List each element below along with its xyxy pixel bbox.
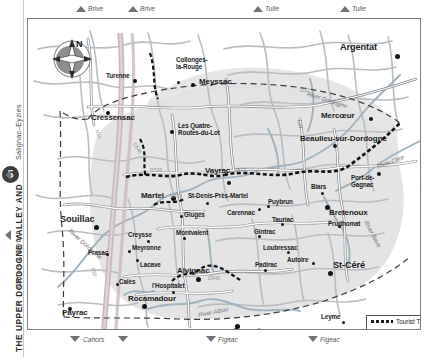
- town-dot[interactable]: [94, 225, 99, 230]
- town-label[interactable]: Prudhomat: [328, 221, 360, 228]
- town-dot[interactable]: [328, 271, 333, 276]
- road-ref: D12: [300, 87, 309, 93]
- town-dot[interactable]: [206, 202, 209, 205]
- town-dot[interactable]: [333, 144, 337, 148]
- town-label[interactable]: Alvignac: [177, 267, 210, 276]
- town-label[interactable]: Rocamadour: [128, 295, 176, 304]
- road-ref: D703: [150, 167, 162, 173]
- edge-label-top-4[interactable]: Tulle: [352, 5, 366, 12]
- town-label[interactable]: Calès: [119, 279, 135, 286]
- edge-label-bottom-1[interactable]: Cahors: [83, 336, 104, 343]
- town-label[interactable]: Montvalent: [176, 230, 208, 237]
- town-label[interactable]: Les Quatre- Routes-du-Lot: [178, 123, 220, 137]
- town-dot[interactable]: [136, 259, 139, 262]
- legend-row-tourist-train: Tourist Train: [371, 318, 421, 325]
- town-label[interactable]: Argentat: [340, 43, 377, 53]
- edge-arrow-top-3[interactable]: [253, 6, 263, 12]
- town-label[interactable]: Vayrac: [205, 167, 230, 176]
- town-dot[interactable]: [177, 81, 180, 84]
- edge-arrow-top-2[interactable]: [128, 6, 138, 12]
- town-dot[interactable]: [180, 215, 183, 218]
- town-label[interactable]: Puybrun: [268, 199, 293, 206]
- road-ref: D940: [208, 275, 220, 281]
- town-label[interactable]: Gramat: [233, 327, 260, 330]
- road-ref: D703: [170, 193, 182, 199]
- adjacent-map-up-arrow[interactable]: [5, 170, 11, 180]
- town-label[interactable]: Gintrac: [254, 229, 275, 236]
- town-label[interactable]: Autoire: [287, 257, 308, 264]
- town-label[interactable]: Leyme: [321, 314, 340, 321]
- town-label[interactable]: Beaulieu-sur-Dordogne: [300, 135, 387, 144]
- town-label[interactable]: Biars: [311, 184, 326, 191]
- town-dot[interactable]: [312, 262, 315, 265]
- town-dot[interactable]: [321, 192, 324, 195]
- legend-label-tourist-train: Tourist Train: [396, 318, 421, 325]
- town-label[interactable]: Gluges: [184, 212, 205, 219]
- adjacent-map-up-label[interactable]: Salignac–Eyzies: [14, 104, 23, 160]
- edge-arrow-bottom-3[interactable]: [206, 336, 216, 342]
- town-label[interactable]: Bretenoux: [329, 209, 368, 218]
- edge-arrow-bottom-2[interactable]: [118, 336, 128, 342]
- edge-arrow-top-1[interactable]: [76, 6, 86, 12]
- town-dot[interactable]: [170, 130, 174, 134]
- dashed-line-icon: [371, 320, 393, 323]
- town-label[interactable]: Turenne: [106, 73, 130, 80]
- compass-north-label: N: [76, 39, 83, 49]
- town-label[interactable]: Mercœur: [321, 112, 355, 121]
- edge-label-bottom-4[interactable]: Figeac: [320, 336, 340, 343]
- town-label[interactable]: Martel: [141, 192, 164, 201]
- town-label[interactable]: Tauriac: [272, 217, 293, 224]
- town-dot[interactable]: [342, 321, 345, 324]
- edge-label-bottom-3[interactable]: Figeac: [218, 336, 238, 343]
- town-label[interactable]: Carennac: [227, 210, 255, 217]
- town-label[interactable]: St-Céré: [333, 261, 365, 271]
- edge-label-top-3[interactable]: Tulle: [265, 5, 279, 12]
- map-legend: Tourist Train 0 10 km: [366, 315, 421, 330]
- town-dot[interactable]: [133, 79, 137, 83]
- town-dot[interactable]: [183, 237, 186, 240]
- scale-min-label: 0: [372, 329, 375, 330]
- town-label[interactable]: Meyronne: [132, 245, 161, 252]
- town-dot[interactable]: [369, 117, 373, 121]
- town-label[interactable]: Meyssac: [199, 78, 232, 87]
- edge-label-top-2[interactable]: Brive: [140, 5, 155, 12]
- edge-arrow-bottom-1[interactable]: [70, 336, 80, 342]
- town-label[interactable]: Creysse: [128, 232, 152, 239]
- town-dot[interactable]: [258, 208, 261, 211]
- town-label[interactable]: Payrac: [62, 309, 88, 318]
- town-label[interactable]: Souillac: [60, 215, 94, 225]
- edge-label-top-1[interactable]: Brive: [88, 5, 103, 12]
- town-dot[interactable]: [128, 250, 131, 253]
- adjacent-map-down-arrow[interactable]: [5, 230, 11, 240]
- map-canvas[interactable]: N Argentat Collonges- la-Rouge Turenne M…: [27, 18, 421, 330]
- town-dot[interactable]: [227, 181, 231, 185]
- town-dot[interactable]: [395, 54, 400, 59]
- town-label[interactable]: Collonges- la-Rouge: [176, 57, 208, 71]
- road-ref: D673: [234, 167, 246, 173]
- map-page: 5 THE UPPER DORDOGNE VALLEY AND Salignac…: [0, 0, 425, 357]
- town-label[interactable]: Lacave: [140, 262, 161, 269]
- town-label[interactable]: Padirac: [255, 262, 277, 269]
- town-dot[interactable]: [196, 277, 201, 282]
- river-label: Lot: [296, 119, 303, 128]
- town-label[interactable]: Cressensac: [91, 114, 135, 123]
- town-dot[interactable]: [264, 269, 267, 272]
- edge-arrow-top-4[interactable]: [340, 6, 350, 12]
- town-dot[interactable]: [191, 83, 195, 87]
- town-label[interactable]: l'Hospitalet: [152, 283, 185, 290]
- town-dot[interactable]: [142, 304, 147, 309]
- town-label[interactable]: Port-de- Gagnac: [351, 175, 374, 189]
- edge-arrow-bottom-4[interactable]: [308, 336, 318, 342]
- town-label[interactable]: Loubressac: [263, 245, 297, 252]
- town-label[interactable]: St-Denis-Près-Martel: [188, 193, 248, 200]
- town-dot[interactable]: [147, 240, 150, 243]
- adjacent-map-down-label[interactable]: Cahors & Sarlat: [14, 234, 23, 288]
- town-dot[interactable]: [377, 172, 381, 176]
- chapter-spine: 5 THE UPPER DORDOGNE VALLEY AND Salignac…: [0, 0, 24, 357]
